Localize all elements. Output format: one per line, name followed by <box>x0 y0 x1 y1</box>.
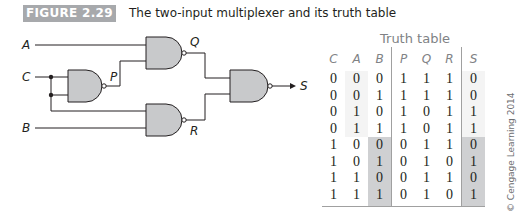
header-s: S <box>462 47 486 71</box>
cell: 0 <box>322 121 345 138</box>
cell: 0 <box>345 71 368 88</box>
cell: 0 <box>392 154 416 171</box>
cell: 1 <box>415 187 438 207</box>
table-row: 0 0 1 1 1 1 0 <box>322 88 485 105</box>
header-c: C <box>322 47 345 71</box>
nand-gate-r <box>146 104 186 136</box>
cell: 0 <box>462 71 486 88</box>
table-row: 1 0 1 0 1 0 1 <box>322 154 485 171</box>
cell: 1 <box>392 71 416 88</box>
cell: 1 <box>438 121 462 138</box>
cell: 0 <box>415 121 438 138</box>
table-row: 1 1 1 0 1 0 1 <box>322 187 485 207</box>
header-a: A <box>345 47 368 71</box>
cell: 0 <box>438 187 462 207</box>
multiplexer-circuit-diagram: A C B P Q R S <box>0 25 330 155</box>
nand-gate-q <box>146 37 186 69</box>
cell: 1 <box>322 154 345 171</box>
header-q: Q <box>415 47 438 71</box>
table-row: 0 0 0 1 1 1 0 <box>322 71 485 88</box>
cell: 1 <box>415 71 438 88</box>
table-row: 1 1 0 0 1 1 0 <box>322 170 485 187</box>
truth-table: C A B P Q R S 0 0 0 1 1 1 0 0 0 1 1 1 1 … <box>322 47 485 207</box>
nand-gate-s <box>230 70 272 102</box>
cell: 0 <box>392 170 416 187</box>
cell: 1 <box>345 104 368 121</box>
figure-title: The two-input multiplexer and its truth … <box>129 4 396 22</box>
cell: 0 <box>322 71 345 88</box>
cell: 1 <box>392 88 416 105</box>
input-label-c: C <box>22 70 31 84</box>
cell: 1 <box>415 137 438 154</box>
cell-highlighted: 0 <box>462 137 486 154</box>
cell: 1 <box>462 121 486 138</box>
cell: 1 <box>392 104 416 121</box>
cell: 1 <box>438 137 462 154</box>
cell: 1 <box>345 170 368 187</box>
cell: 1 <box>322 170 345 187</box>
cell: 0 <box>322 88 345 105</box>
signal-label-p: P <box>110 70 118 84</box>
cell: 0 <box>415 104 438 121</box>
cell: 1 <box>345 187 368 207</box>
cell: 0 <box>368 104 392 121</box>
cell: 1 <box>322 187 345 207</box>
cell: 1 <box>438 104 462 121</box>
cell: 1 <box>415 154 438 171</box>
header-b: B <box>368 47 392 71</box>
arrow-icon <box>290 83 296 89</box>
figure-label: FIGURE 2.29 <box>23 5 116 22</box>
cell: 1 <box>368 88 392 105</box>
cell: 0 <box>392 137 416 154</box>
signal-label-q: Q <box>190 35 199 49</box>
cell: 1 <box>392 121 416 138</box>
cell: 1 <box>415 170 438 187</box>
cell: 0 <box>345 137 368 154</box>
cell-highlighted: 1 <box>462 154 486 171</box>
input-label-a: A <box>21 38 30 52</box>
cell-highlighted: 1 <box>368 187 392 207</box>
cell-highlighted: 1 <box>462 187 486 207</box>
cell: 1 <box>322 137 345 154</box>
cell-highlighted: 0 <box>462 170 486 187</box>
cell: 0 <box>322 104 345 121</box>
table-row: 1 0 0 0 1 1 0 <box>322 137 485 154</box>
table-row: 0 1 0 1 0 1 1 <box>322 104 485 121</box>
cell: 1 <box>438 88 462 105</box>
cell: 0 <box>345 88 368 105</box>
cell: 1 <box>438 170 462 187</box>
cell-highlighted: 1 <box>368 154 392 171</box>
cell: 1 <box>345 121 368 138</box>
table-row: 0 1 1 1 0 1 1 <box>322 121 485 138</box>
nand-gate-p <box>68 70 106 102</box>
cell: 0 <box>438 154 462 171</box>
input-label-b: B <box>22 121 30 135</box>
cell: 1 <box>368 121 392 138</box>
copyright-notice: © Cengage Learning 2014 <box>506 92 516 212</box>
signal-label-r: R <box>190 124 198 138</box>
cell: 1 <box>462 104 486 121</box>
cell: 1 <box>415 88 438 105</box>
junction-dot <box>49 75 53 79</box>
cell-highlighted: 0 <box>368 170 392 187</box>
cell: 1 <box>438 71 462 88</box>
header-p: P <box>392 47 416 71</box>
output-label-s: S <box>300 79 308 93</box>
header-r: R <box>438 47 462 71</box>
junction-dot <box>49 93 53 97</box>
truth-table-title: Truth table <box>380 31 450 46</box>
cell: 0 <box>392 187 416 207</box>
cell: 0 <box>462 88 486 105</box>
cell: 0 <box>345 154 368 171</box>
cell-highlighted: 0 <box>368 137 392 154</box>
cell: 0 <box>368 71 392 88</box>
